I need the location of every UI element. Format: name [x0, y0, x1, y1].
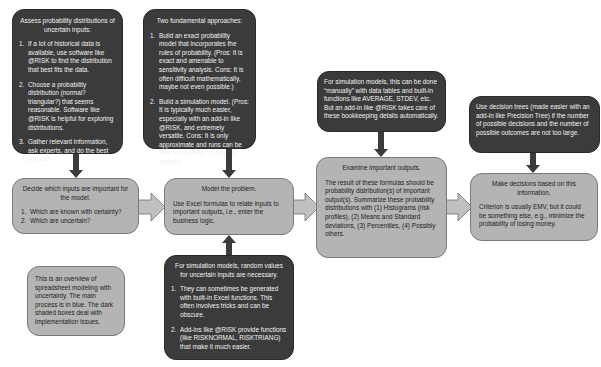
decide-inputs-box: Decide which inputs are important for th…	[12, 178, 139, 234]
examine-title: Examine important outputs.	[325, 164, 438, 173]
approaches-title: Two fundamental approaches:	[150, 17, 249, 26]
approaches-item: 2.Build a simulation model. (Pros: It is…	[150, 98, 249, 167]
approaches-item: 1.Build an exact probability model that …	[150, 32, 249, 92]
decide-item: 2.Which are uncertain?	[21, 217, 130, 226]
arrow-random-to-model	[226, 242, 232, 255]
assess-distributions-box: Assess probability distributions of unce…	[12, 9, 123, 154]
examine-outputs-box: Examine important outputs. The result of…	[316, 157, 447, 258]
block-arrow-examine-to-decisions	[445, 192, 473, 222]
bookkeeping-box: For simulation models, this can be done …	[317, 71, 446, 132]
arrow-bookkeeping-to-examine	[378, 132, 384, 150]
assess-item: 1.If a lot of historical data is availab…	[19, 40, 116, 74]
decide-title: Decide which inputs are important for th…	[21, 185, 130, 202]
decisions-title: Make decisions based on this information…	[479, 180, 589, 197]
arrow-assess-to-decide	[73, 154, 79, 171]
random-values-box: For simulation models, random values for…	[164, 255, 294, 360]
overview-note-box: This is an overview of spreadsheet model…	[27, 266, 125, 336]
assess-item: 3.Gather relevant information, ask exper…	[19, 138, 116, 164]
model-title: Model the problem.	[173, 185, 285, 194]
arrow-trees-to-decisions	[530, 153, 536, 166]
arrow-approaches-to-model	[226, 149, 232, 171]
block-arrow-decide-to-model	[138, 192, 166, 222]
model-problem-box: Model the problem. Use Excel formulas to…	[164, 178, 294, 235]
make-decisions-box: Make decisions based on this information…	[470, 173, 598, 241]
decision-trees-box: Use decision trees (made easier with an …	[469, 96, 600, 153]
random-values-title: For simulation models, random values for…	[171, 262, 287, 279]
assess-item: 2.Choose a probability distribution (nor…	[19, 81, 116, 133]
approaches-box: Two fundamental approaches: 1.Build an e…	[143, 9, 256, 149]
random-values-item: 2.Add-ins like @RISK provide functions (…	[171, 326, 287, 352]
decide-item: 1.Which are known with certainty?	[21, 208, 130, 217]
random-values-item: 1.They can sometimes be generated with b…	[171, 285, 287, 319]
assess-title: Assess probability distributions of unce…	[19, 17, 116, 34]
